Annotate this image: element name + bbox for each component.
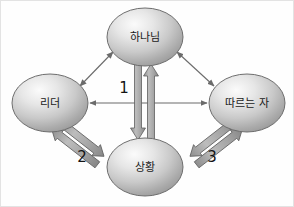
edge-number-3: 3 xyxy=(207,148,217,166)
node-situation[interactable]: 상황 xyxy=(107,138,183,196)
edge-number-1: 1 xyxy=(119,79,129,97)
relationship-diagram: 하나님 리더 따르는 자 상황 1 2 3 xyxy=(0,0,294,207)
node-follower-label: 따르는 자 xyxy=(225,97,270,110)
node-god[interactable]: 하나님 xyxy=(107,8,183,66)
thin-edge-god-follower xyxy=(177,52,214,86)
diagram-canvas: 하나님 리더 따르는 자 상황 1 2 3 xyxy=(0,0,294,207)
node-situation-label: 상황 xyxy=(135,161,155,174)
node-follower[interactable]: 따르는 자 xyxy=(209,74,285,132)
edge-number-2: 2 xyxy=(77,148,87,166)
thin-edge-leader-god xyxy=(80,52,113,86)
node-leader[interactable]: 리더 xyxy=(12,74,88,132)
thick-edge-1 xyxy=(131,64,159,140)
node-god-label: 하나님 xyxy=(130,30,161,44)
node-leader-label: 리더 xyxy=(40,97,60,110)
